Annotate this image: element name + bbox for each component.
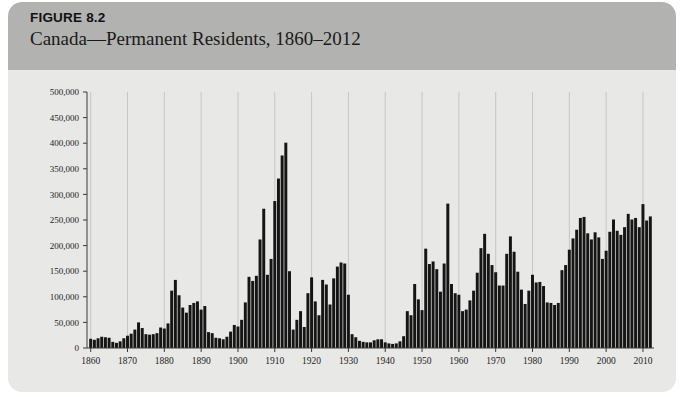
- bar: [454, 293, 457, 348]
- bar: [104, 337, 107, 348]
- bar: [494, 272, 497, 348]
- bar: [262, 209, 265, 348]
- bar: [421, 310, 424, 348]
- bar: [236, 326, 239, 348]
- bar: [259, 239, 262, 348]
- bar: [189, 305, 192, 348]
- bar: [178, 295, 181, 348]
- x-tick-label: 1900: [228, 356, 247, 366]
- bar: [424, 249, 427, 348]
- x-tick-label: 1930: [339, 356, 358, 366]
- x-tick-label: 1890: [192, 356, 211, 366]
- bar: [181, 308, 184, 348]
- bar: [97, 338, 100, 348]
- bar: [476, 273, 479, 348]
- y-tick-label: 400,000: [50, 138, 80, 148]
- x-tick-label: 1960: [449, 356, 468, 366]
- bar: [564, 265, 567, 348]
- bars-group: [89, 143, 652, 348]
- bar: [248, 277, 251, 348]
- bar-chart-svg: 050,000100,000150,000200,000250,000300,0…: [8, 70, 676, 392]
- bar: [240, 320, 243, 348]
- bar: [292, 330, 295, 348]
- y-tick-label: 200,000: [50, 241, 80, 251]
- bar: [155, 333, 158, 348]
- bar: [369, 342, 372, 348]
- gridlines-vertical: [91, 92, 643, 348]
- bar: [498, 286, 501, 348]
- y-tick-label: 50,000: [54, 318, 79, 328]
- bar: [590, 239, 593, 348]
- bar: [531, 275, 534, 348]
- bar: [520, 290, 523, 348]
- bar: [586, 233, 589, 348]
- bar: [270, 259, 273, 348]
- bar: [144, 334, 147, 348]
- bar: [200, 310, 203, 348]
- bar: [568, 250, 571, 348]
- bar: [410, 315, 413, 348]
- y-tick-label: 450,000: [50, 113, 80, 123]
- bar: [649, 216, 652, 348]
- bar: [491, 265, 494, 348]
- bar: [472, 291, 475, 348]
- bar: [229, 332, 232, 348]
- bar: [325, 285, 328, 348]
- bar: [443, 264, 446, 348]
- bar: [553, 305, 556, 348]
- bar: [130, 334, 133, 348]
- bar: [373, 340, 376, 348]
- bar: [627, 214, 630, 348]
- bar: [207, 332, 210, 348]
- bar: [115, 343, 118, 348]
- y-tick-label: 100,000: [50, 292, 80, 302]
- bar: [583, 217, 586, 348]
- bar: [630, 219, 633, 348]
- bar: [329, 304, 332, 348]
- bar: [343, 264, 346, 348]
- bar: [645, 221, 648, 348]
- bar: [251, 281, 254, 348]
- bar: [306, 293, 309, 348]
- bar: [211, 333, 214, 348]
- bar: [365, 342, 368, 348]
- bar: [384, 342, 387, 348]
- bar: [597, 237, 600, 348]
- x-tick-label: 1870: [118, 356, 137, 366]
- bar: [119, 341, 122, 348]
- bar: [295, 320, 298, 348]
- y-tick-label: 350,000: [50, 164, 80, 174]
- bar: [601, 259, 604, 348]
- bar: [376, 339, 379, 348]
- x-tick-label: 1990: [560, 356, 579, 366]
- bar: [284, 143, 287, 348]
- bar: [122, 338, 125, 348]
- bar: [557, 303, 560, 348]
- bar: [413, 284, 416, 348]
- bar: [605, 251, 608, 348]
- bar: [214, 338, 217, 348]
- bar: [273, 201, 276, 348]
- bar: [432, 261, 435, 348]
- y-axis-tick-labels: 050,000100,000150,000200,000250,000300,0…: [50, 87, 80, 353]
- bar: [560, 270, 563, 348]
- bar: [126, 336, 129, 348]
- bar: [185, 313, 188, 348]
- bar: [310, 277, 313, 348]
- bar: [505, 254, 508, 348]
- bar: [546, 302, 549, 348]
- y-tick-label: 250,000: [50, 215, 80, 225]
- bar: [619, 235, 622, 348]
- bar: [575, 230, 578, 348]
- bar: [218, 338, 221, 348]
- bar: [542, 286, 545, 348]
- bar: [641, 204, 644, 348]
- bar: [465, 310, 468, 348]
- x-tick-label: 1860: [81, 356, 100, 366]
- bar: [406, 311, 409, 348]
- x-tick-label: 1950: [413, 356, 432, 366]
- bar: [222, 339, 225, 348]
- bar: [638, 227, 641, 348]
- bar: [549, 303, 552, 348]
- bar: [623, 227, 626, 348]
